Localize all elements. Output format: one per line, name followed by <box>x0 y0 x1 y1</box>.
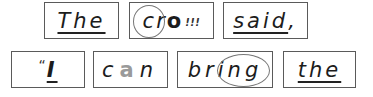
word-part: n <box>140 58 159 82</box>
word-box-the: The <box>44 2 119 39</box>
word-part-marks: !!! <box>185 17 200 28</box>
open-quote: “ <box>38 57 45 73</box>
word-part: c <box>102 58 120 82</box>
word-the: the <box>284 52 355 87</box>
word-bring: bring <box>178 52 272 87</box>
word-can: can <box>94 52 167 87</box>
word-the: The <box>45 3 118 38</box>
word-part-plain: cr <box>143 9 167 33</box>
word-part-bold: o <box>167 9 183 33</box>
word-box-can: can <box>93 51 168 88</box>
word-punct: , <box>288 9 298 33</box>
word-box-the-2: the <box>283 51 356 88</box>
word-box-i: “I <box>11 51 85 88</box>
word-part: br <box>188 58 218 82</box>
word-text: the <box>298 58 341 82</box>
word-text: I <box>47 58 58 82</box>
word-box-bring: bring <box>177 51 273 88</box>
word-i: “I <box>12 52 84 87</box>
word-said: said, <box>224 3 307 38</box>
word-text: said <box>233 9 288 33</box>
word-text: The <box>57 9 105 33</box>
word-part-ending: ing <box>218 58 262 82</box>
word-crow: cro!!! <box>130 3 213 38</box>
word-box-said: said, <box>223 2 308 39</box>
word-box-crow: cro!!! <box>129 2 214 39</box>
word-part-vowel: a <box>120 58 140 82</box>
